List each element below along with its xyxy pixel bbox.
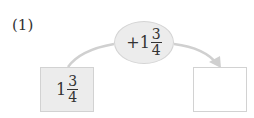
- start-value: 1 3 4: [56, 74, 78, 105]
- start-whole: 1: [56, 80, 66, 99]
- operation-denominator: 4: [152, 43, 161, 58]
- operation-value: + 1 3 4: [126, 27, 162, 58]
- operation-bubble: + 1 3 4: [114, 21, 174, 64]
- start-numerator: 3: [67, 74, 78, 90]
- operation-sign: +: [126, 33, 139, 52]
- start-denominator: 4: [68, 90, 77, 105]
- answer-box[interactable]: [193, 67, 247, 112]
- operation-fraction: 3 4: [151, 27, 162, 58]
- operation-whole: 1: [140, 33, 150, 52]
- start-value-box: 1 3 4: [40, 67, 94, 112]
- operation-numerator: 3: [151, 27, 162, 43]
- start-fraction: 3 4: [67, 74, 78, 105]
